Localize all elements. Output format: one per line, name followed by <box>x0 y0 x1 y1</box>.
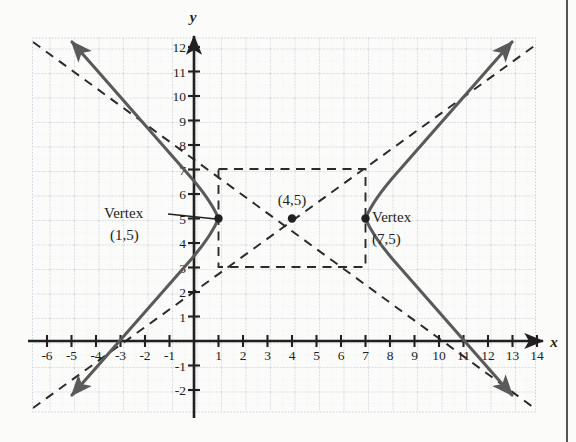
x-tick-label: 6 <box>338 348 345 363</box>
vertex-left-coords: (1,5) <box>110 227 139 244</box>
page-edge-line <box>566 0 568 442</box>
x-tick-labels: -6 -5 -4 -3 -2 -1 1 2 3 4 5 6 7 8 9 10 1… <box>41 348 544 363</box>
hyperbola-figure: -6 -5 -4 -3 -2 -1 1 2 3 4 5 6 7 8 9 10 1… <box>0 0 576 442</box>
x-tick-label: 2 <box>240 348 247 363</box>
y-tick-label: 11 <box>173 65 186 80</box>
y-tick-label: 2 <box>179 285 186 300</box>
y-tick-label: -2 <box>175 383 186 398</box>
x-tick-label: 10 <box>432 348 446 363</box>
center-point <box>288 214 296 222</box>
y-tick-label: 5 <box>179 212 186 227</box>
y-tick-label: 10 <box>173 89 187 104</box>
x-tick-label: 5 <box>313 348 320 363</box>
y-tick-label: 12 <box>173 40 187 55</box>
x-tick-label: -1 <box>164 348 175 363</box>
x-axis-label: x <box>549 334 558 350</box>
vertex-right-title: Vertex <box>372 209 412 225</box>
x-tick-label: 4 <box>289 348 296 363</box>
vertex-left-title: Vertex <box>104 205 144 221</box>
x-tick-label: -6 <box>41 348 52 363</box>
center-label: (4,5) <box>278 192 307 209</box>
x-tick-label: 8 <box>387 348 394 363</box>
x-tick-label: -3 <box>115 348 126 363</box>
x-tick-label: 11 <box>457 348 470 363</box>
x-tick-label: 1 <box>215 348 222 363</box>
y-tick-label: 9 <box>179 114 186 129</box>
x-tick-label: 3 <box>264 348 271 363</box>
x-tick-label: -2 <box>139 348 150 363</box>
y-tick-label: -1 <box>175 359 186 374</box>
y-tick-label: 6 <box>179 187 186 202</box>
vertex-right-coords: (7,5) <box>372 231 401 248</box>
x-tick-label: 14 <box>530 348 544 363</box>
y-tick-label: 1 <box>179 310 186 325</box>
x-tick-label: -5 <box>66 348 77 363</box>
x-tick-label: 13 <box>506 348 520 363</box>
y-axis-label: y <box>188 9 197 25</box>
y-tick-label: 4 <box>179 236 186 251</box>
graph-canvas: -6 -5 -4 -3 -2 -1 1 2 3 4 5 6 7 8 9 10 1… <box>0 0 576 442</box>
vertex-right-point <box>361 214 369 222</box>
y-tick-label: 8 <box>179 138 186 153</box>
x-tick-label: 7 <box>362 348 369 363</box>
x-tick-label: 9 <box>411 348 418 363</box>
